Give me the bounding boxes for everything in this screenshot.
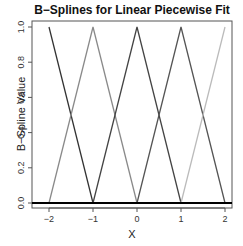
x-tick-label: 2 <box>222 214 227 224</box>
x-tick-label: 1 <box>178 214 183 224</box>
y-axis: 0.00.20.40.60.81.0 <box>16 21 32 210</box>
spline-b2 <box>49 27 137 203</box>
spline-lines <box>32 27 232 203</box>
y-tick-label: 1.0 <box>16 21 26 34</box>
y-tick-label: 0.6 <box>16 91 26 104</box>
spline-b4 <box>137 27 225 203</box>
y-tick-label: 0.4 <box>16 126 26 139</box>
y-tick-label: 0.0 <box>16 197 26 210</box>
x-tick-label: −1 <box>88 214 98 224</box>
x-tick-label: 0 <box>134 214 139 224</box>
spline-b3 <box>93 27 181 203</box>
plot-area: −2−1012 0.00.20.40.60.81.0 <box>0 0 243 246</box>
y-tick-label: 0.2 <box>16 162 26 175</box>
y-tick-label: 0.8 <box>16 56 26 69</box>
x-tick-label: −2 <box>44 214 54 224</box>
x-axis: −2−1012 <box>44 208 228 224</box>
